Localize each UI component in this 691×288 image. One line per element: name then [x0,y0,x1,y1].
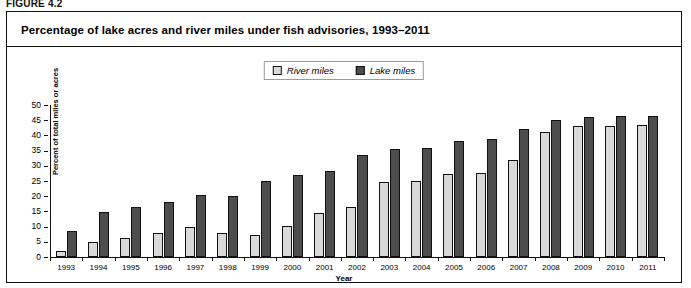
x-axis-tick-label: 1994 [90,263,108,272]
y-axis-tick-mark [44,135,48,136]
bar-lake-miles [390,149,400,257]
bar-lake-miles [131,207,141,257]
x-axis-tick-label: 2005 [445,263,463,272]
x-axis-tick-mark [535,257,536,261]
x-axis-tick-mark [599,257,600,261]
bar-river-miles [153,233,163,257]
bar-river-miles [508,160,518,257]
bar-lake-miles [325,171,335,257]
bar-group [244,105,276,257]
bar-lake-miles [261,181,271,257]
x-axis-tick-mark [664,257,665,261]
bar-lake-miles [293,175,303,257]
bar-group [470,105,502,257]
bar-group [276,105,308,257]
bar-river-miles [217,233,227,257]
bar-lake-miles [551,120,561,257]
bar-group [212,105,244,257]
y-axis-tick-label: 30 [32,160,41,170]
x-axis-tick-mark [276,257,277,261]
x-axis-tick-label: 1993 [57,263,75,272]
bar-group [147,105,179,257]
bar-group [502,105,534,257]
bar-lake-miles [487,139,497,257]
x-axis-tick-label: 2010 [607,263,625,272]
bar-river-miles [282,226,292,257]
x-axis-tick-label: 2009 [574,263,592,272]
bar-river-miles [476,173,486,257]
x-axis-tick-label: 1997 [187,263,205,272]
chart-title: Percentage of lake acres and river miles… [21,24,430,36]
x-axis-tick-label: 1995 [122,263,140,272]
bar-group [341,105,373,257]
legend-label: River miles [287,65,334,76]
x-axis-tick-mark [179,257,180,261]
y-axis-tick-label: 45 [32,115,41,125]
x-axis-tick-label: 1999 [251,263,269,272]
bar-river-miles [605,126,615,257]
bar-river-miles [185,227,195,257]
bar-lake-miles [584,117,594,257]
y-axis-tick-label: 5 [36,236,41,246]
y-axis-tick-label: 25 [32,176,41,186]
bar-river-miles [314,213,324,257]
bar-group [599,105,631,257]
bar-lake-miles [422,148,432,257]
bar-river-miles [443,174,453,257]
bar-group [179,105,211,257]
x-axis-tick-mark [567,257,568,261]
y-axis-tick-label: 35 [32,145,41,155]
y-axis-tick-label: 10 [32,221,41,231]
x-axis-tick-mark [438,257,439,261]
legend-label: Lake miles [370,65,415,76]
bar-lake-miles [648,116,658,257]
bar-lake-miles [357,155,367,257]
x-axis-tick-label: 2003 [380,263,398,272]
bar-group [50,105,82,257]
bar-lake-miles [616,116,626,257]
bar-lake-miles [164,202,174,257]
x-axis-tick-label: 2008 [542,263,560,272]
bar-lake-miles [454,141,464,257]
legend-entry-river-miles: River miles [273,65,334,76]
y-axis-tick-mark [44,227,48,228]
x-axis-tick-label: 2007 [510,263,528,272]
bar-group [535,105,567,257]
x-axis-tick-label: 1996 [154,263,172,272]
x-axis-tick-mark [309,257,310,261]
bar-group [632,105,664,257]
y-axis-tick-mark [44,105,48,106]
x-axis-tick-mark [470,257,471,261]
legend-swatch-icon [356,66,365,75]
bar-group [405,105,437,257]
x-axis-tick-mark [50,257,51,261]
bar-river-miles [56,251,66,257]
x-axis-tick-mark [212,257,213,261]
x-axis-tick-label: 2011 [639,263,656,272]
legend-entry-lake-miles: Lake miles [356,65,415,76]
legend-swatch-icon [273,66,282,75]
y-axis-tick-mark [44,120,48,121]
x-axis-tick-label: 2006 [477,263,495,272]
bar-river-miles [346,207,356,257]
y-axis-tick-mark [44,166,48,167]
y-axis-tick-mark [44,181,48,182]
bar-river-miles [637,125,647,257]
y-axis-tick-label: 50 [32,100,41,110]
figure-label: FIGURE 4.2 [6,0,62,10]
bar-lake-miles [67,231,77,257]
chart-legend: River milesLake miles [264,61,424,80]
bar-river-miles [540,132,550,257]
y-axis-tick-mark [44,196,48,197]
bar-group [309,105,341,257]
bar-river-miles [379,182,389,257]
x-axis-tick-mark [405,257,406,261]
x-axis-tick-mark [147,257,148,261]
bar-lake-miles [99,212,109,257]
x-axis-tick-label: 1998 [219,263,237,272]
bar-river-miles [411,181,421,257]
bar-group [438,105,470,257]
y-axis-tick-mark [44,211,48,212]
x-axis-tick-label: 2002 [348,263,366,272]
bar-group [373,105,405,257]
